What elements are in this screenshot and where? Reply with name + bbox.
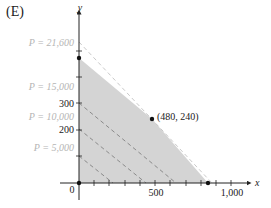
iso-label-21600: P = 21,600 bbox=[28, 37, 74, 48]
y-axis-label: y bbox=[77, 2, 83, 13]
origin-label: 0 bbox=[70, 184, 75, 195]
linear-programming-chart: y x 0 500 1,000 300 200 P = 21,600 P = 1… bbox=[0, 0, 271, 208]
iso-label-10000: P = 10,000 bbox=[28, 111, 74, 122]
x-axis-label: x bbox=[254, 177, 260, 188]
point-optimal bbox=[150, 117, 154, 121]
optimal-point-label: (480, 240) bbox=[157, 111, 199, 123]
iso-label-15000: P = 15,000 bbox=[28, 81, 74, 92]
point-origin bbox=[77, 181, 81, 185]
point-x-intercept bbox=[206, 181, 210, 185]
y-tick-label-300: 300 bbox=[59, 98, 74, 109]
point-y-intercept bbox=[77, 56, 81, 60]
x-tick-label-1000: 1,000 bbox=[221, 187, 244, 198]
y-tick-label-200: 200 bbox=[59, 124, 74, 135]
iso-label-5000: P = 5,000 bbox=[33, 142, 74, 153]
x-tick-label-500: 500 bbox=[149, 187, 164, 198]
